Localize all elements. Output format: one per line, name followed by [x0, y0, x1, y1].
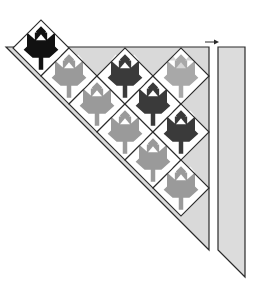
arrow-head	[214, 40, 219, 45]
quilt-diagram	[0, 0, 262, 295]
arrow-right-icon	[205, 40, 219, 45]
quilt-layout-canvas	[0, 0, 262, 295]
maple-leaf-blocks	[2, 9, 220, 227]
border-strip-piece	[218, 47, 245, 277]
border-strip	[218, 47, 245, 277]
